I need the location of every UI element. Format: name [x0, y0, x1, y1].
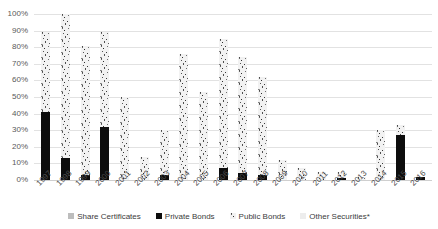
bar-stack — [238, 14, 247, 180]
x-axis-slot: 2014 — [371, 180, 391, 206]
bar-group — [75, 14, 95, 180]
legend-item[interactable]: Other Securities* — [300, 212, 369, 221]
bar-group — [154, 14, 174, 180]
legend-label: Other Securities* — [309, 212, 369, 221]
bar-segment — [41, 32, 50, 112]
legend-label: Public Bonds — [239, 212, 286, 221]
bar-stack — [258, 14, 267, 180]
bar-group — [115, 14, 135, 180]
x-axis-slot: 2010 — [292, 180, 312, 206]
bar-stack — [100, 14, 109, 180]
bar-group — [233, 14, 253, 180]
y-axis-tick-labels: 100%90%80%70%60%50%40%30%20%10%0% — [0, 14, 32, 180]
y-axis-tick: 30% — [12, 126, 28, 134]
bar-stack — [317, 14, 326, 180]
bar-group — [135, 14, 155, 180]
x-axis-slot: 2015 — [391, 180, 411, 206]
stacked-bar-chart: 100%90%80%70%60%50%40%30%20%10%0% 199719… — [0, 0, 438, 229]
x-axis-slot: 2003 — [154, 180, 174, 206]
x-axis-slot: 1997 — [36, 180, 56, 206]
bar-stack — [61, 14, 70, 180]
y-axis-tick: 50% — [12, 93, 28, 101]
bar-stack — [396, 14, 405, 180]
bar-group — [253, 14, 273, 180]
y-axis-tick: 70% — [12, 60, 28, 68]
plot-area — [34, 14, 432, 180]
x-axis-slot: 2008 — [253, 180, 273, 206]
x-axis-slot: 1998 — [56, 180, 76, 206]
bar-group — [56, 14, 76, 180]
x-axis-slot: 2002 — [135, 180, 155, 206]
x-axis-slot: 2013 — [351, 180, 371, 206]
y-axis-tick: 0% — [16, 176, 28, 184]
other-swatch — [300, 213, 306, 219]
bar-stack — [278, 14, 287, 180]
y-axis-tick: 60% — [12, 76, 28, 84]
y-axis-tick: 10% — [12, 159, 28, 167]
bar-group — [174, 14, 194, 180]
bar-stack — [199, 14, 208, 180]
x-axis-slot: 2001 — [115, 180, 135, 206]
legend-label: Share Certificates — [77, 212, 141, 221]
bar-stack — [140, 14, 149, 180]
share-swatch — [68, 213, 74, 219]
bar-stack — [376, 14, 385, 180]
bar-stack — [337, 14, 346, 180]
bar-segment — [179, 54, 188, 180]
x-axis-slot: 2007 — [233, 180, 253, 206]
bar-group — [410, 14, 430, 180]
bar-segment — [100, 32, 109, 127]
bar-stack — [416, 14, 425, 180]
bar-group — [371, 14, 391, 180]
bar-group — [213, 14, 233, 180]
x-axis-tick-labels: 1997199819992000200120022003200420052006… — [34, 180, 432, 206]
x-axis-slot: 2005 — [194, 180, 214, 206]
bar-stack — [160, 14, 169, 180]
x-axis-slot: 2006 — [213, 180, 233, 206]
bar-segment — [61, 14, 70, 158]
bar-segment — [199, 92, 208, 180]
bar-group — [332, 14, 352, 180]
bar-series-container — [34, 14, 432, 180]
bar-group — [95, 14, 115, 180]
bar-stack — [120, 14, 129, 180]
bar-group — [292, 14, 312, 180]
legend-item[interactable]: Share Certificates — [68, 212, 141, 221]
private-swatch — [156, 213, 162, 219]
legend-item[interactable]: Private Bonds — [156, 212, 215, 221]
legend-item[interactable]: Public Bonds — [230, 212, 286, 221]
y-axis-tick: 100% — [8, 10, 28, 18]
bar-stack — [357, 14, 366, 180]
bar-stack — [219, 14, 228, 180]
x-axis-slot: 2009 — [272, 180, 292, 206]
y-axis-tick: 80% — [12, 43, 28, 51]
bar-stack — [297, 14, 306, 180]
bar-stack — [179, 14, 188, 180]
x-axis-slot: 2016 — [410, 180, 430, 206]
bar-group — [36, 14, 56, 180]
y-axis-tick: 90% — [12, 27, 28, 35]
legend-label: Private Bonds — [165, 212, 215, 221]
bar-group — [351, 14, 371, 180]
y-axis-tick: 20% — [12, 143, 28, 151]
x-axis-slot: 1999 — [75, 180, 95, 206]
bar-stack — [81, 14, 90, 180]
bar-group — [312, 14, 332, 180]
bar-group — [391, 14, 411, 180]
bar-group — [272, 14, 292, 180]
bar-segment — [396, 125, 405, 135]
y-axis-tick: 40% — [12, 110, 28, 118]
bar-group — [194, 14, 214, 180]
public-swatch — [230, 213, 236, 219]
bar-segment — [258, 77, 267, 175]
x-axis-slot: 2011 — [312, 180, 332, 206]
x-axis-slot: 2012 — [332, 180, 352, 206]
x-axis-slot: 2004 — [174, 180, 194, 206]
bar-segment — [238, 57, 247, 173]
x-axis-slot: 2000 — [95, 180, 115, 206]
bar-segment — [219, 39, 228, 168]
chart-legend: Share CertificatesPrivate BondsPublic Bo… — [0, 208, 438, 224]
bar-segment — [81, 46, 90, 175]
bar-stack — [41, 14, 50, 180]
bar-segment — [120, 97, 129, 180]
